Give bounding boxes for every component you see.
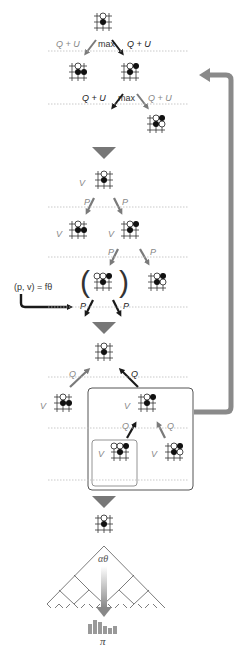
stage-arrow-icon (92, 322, 116, 334)
repeat-loop-arrow (194, 75, 231, 412)
search-to-policy-arrowhead-icon (96, 607, 112, 617)
qu-label-right: Q + U (127, 39, 151, 49)
child-board-right-icon (121, 221, 139, 239)
v-label: V (56, 229, 63, 239)
p-label-left-3: P (80, 301, 86, 311)
p-label-right: P (122, 197, 128, 207)
expanded-leaf-board-icon (94, 273, 112, 291)
panel-backup: Q Q V V Q Q V V (40, 343, 193, 490)
q-label-right-2: Q (167, 421, 174, 431)
leaf-board-icon (165, 443, 183, 461)
p-label-left: P (84, 197, 90, 207)
v-label: V (40, 401, 47, 411)
search-to-policy-arrow (101, 566, 107, 608)
child-board-left-icon (54, 394, 72, 412)
child-board-left-icon (69, 221, 87, 239)
network-arrow (21, 294, 70, 307)
qu-label-right-2: Q + U (148, 93, 172, 103)
panel-expand: V P P V V P P ( ) (p, v) = fθ P P (14, 171, 188, 314)
child-board-right-icon (138, 394, 156, 412)
qu-label-left-2: Q + U (82, 93, 106, 103)
v-label: V (98, 449, 105, 459)
child-board-left-icon (69, 63, 87, 81)
repeat-loop-arrowhead-icon (199, 68, 210, 82)
select-arrow-right-2 (137, 94, 147, 107)
root-board-icon (95, 515, 113, 533)
search-label: αθ (98, 553, 108, 564)
p-label-right-2: P (150, 247, 156, 257)
qu-label-left: Q + U (56, 39, 80, 49)
leaf-board-icon (148, 273, 166, 291)
backup-arrow-right-2 (158, 424, 165, 438)
mcts-diagram: Q + U max Q + U Q + U max Q + U V P P V … (0, 0, 237, 650)
root-board-icon (94, 13, 112, 31)
q-label-right: Q (131, 369, 138, 379)
v-label: V (79, 178, 86, 188)
prior-arrow-right (114, 198, 121, 212)
v-label: V (108, 229, 115, 239)
p-label-right-3: P (123, 301, 129, 311)
v-label: V (124, 401, 131, 411)
network-label: (p, v) = fθ (14, 282, 52, 292)
child-board-right-icon (121, 63, 139, 81)
expanded-leaf-board-icon (111, 443, 129, 461)
root-board-icon (95, 343, 113, 361)
paren-left: ( (80, 265, 90, 298)
paren-right: ) (119, 265, 129, 298)
panel-select: Q + U max Q + U Q + U max Q + U (48, 13, 188, 133)
policy-label: π (100, 635, 106, 647)
q-label-left: Q (69, 369, 76, 379)
panel-play: αθ π (47, 515, 165, 647)
q-label-left-2: Q (122, 421, 129, 431)
leaf-board-icon (147, 115, 165, 133)
policy-histogram (88, 620, 117, 634)
stage-arrow-icon (92, 147, 116, 159)
root-board-icon (95, 171, 113, 189)
p-label-left-2: P (108, 247, 114, 257)
prior-arrow-right-2 (140, 249, 148, 263)
stage-arrow-icon (92, 496, 116, 508)
v-label: V (151, 449, 158, 459)
